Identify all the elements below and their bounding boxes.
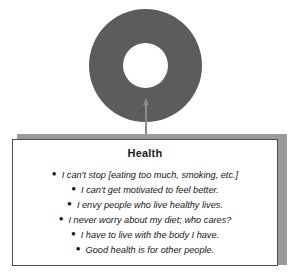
list-item-label: I envy people who live healthy lives. bbox=[77, 198, 223, 213]
bullet-dot-icon: ● bbox=[67, 197, 72, 212]
list-item-label: I have to live with the body I have. bbox=[81, 228, 219, 243]
callout-title: Health bbox=[13, 147, 277, 159]
bullet-dot-icon: ● bbox=[71, 227, 76, 242]
list-item-label: I can't get motivated to feel better. bbox=[81, 183, 219, 198]
list-item: ●Good health is for other people. bbox=[13, 243, 277, 258]
list-item-label: Good health is for other people. bbox=[86, 243, 215, 258]
donut-inner-hole bbox=[123, 43, 168, 88]
list-item: ●I have to live with the body I have. bbox=[13, 228, 277, 243]
list-item: ●I envy people who live healthy lives. bbox=[13, 198, 277, 213]
callout-bullet-list: ●I can't stop [eating too much, smoking,… bbox=[13, 168, 277, 257]
diagram-canvas: Health ●I can't stop [eating too much, s… bbox=[0, 0, 295, 279]
callout-box: Health ●I can't stop [eating too much, s… bbox=[12, 139, 278, 266]
list-item-label: I can't stop [eating too much, smoking, … bbox=[62, 168, 238, 183]
bullet-dot-icon: ● bbox=[52, 167, 57, 182]
bullet-dot-icon: ● bbox=[76, 242, 81, 257]
bullet-dot-icon: ● bbox=[71, 182, 76, 197]
list-item-label: I never worry about my diet; who cares? bbox=[68, 213, 231, 228]
list-item: ●I never worry about my diet; who cares? bbox=[13, 213, 277, 228]
list-item: ●I can't get motivated to feel better. bbox=[13, 183, 277, 198]
list-item: ●I can't stop [eating too much, smoking,… bbox=[13, 168, 277, 183]
bullet-dot-icon: ● bbox=[59, 212, 64, 227]
